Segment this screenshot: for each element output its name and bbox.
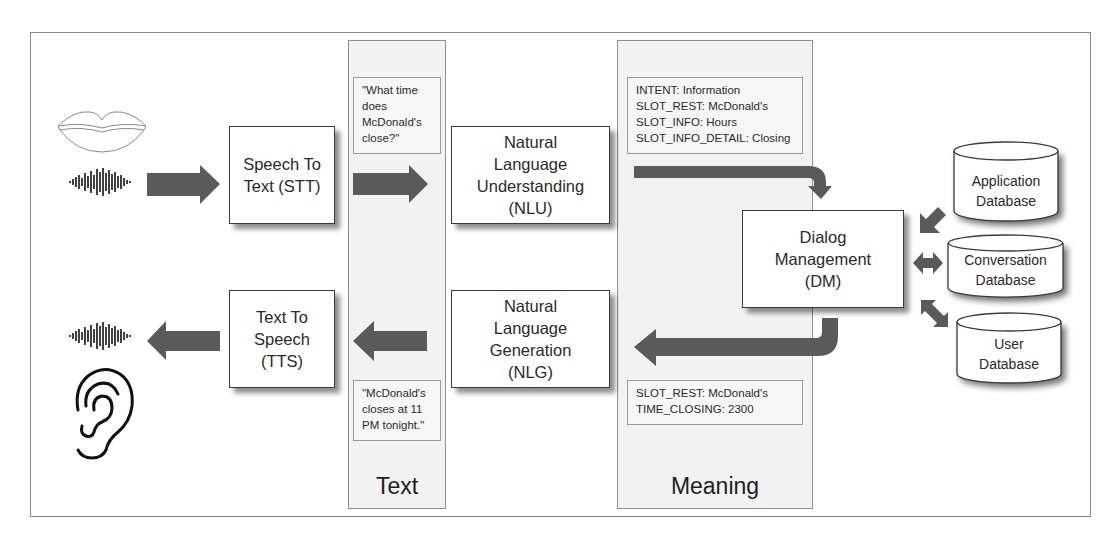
user-database: User Database: [955, 312, 1063, 386]
dm-label: Dialog Management (DM): [775, 226, 871, 292]
nlu-label: Natural Language Understanding (NLU): [477, 131, 584, 219]
lips-icon: [56, 108, 148, 154]
sound-wave-icon: [68, 320, 132, 352]
database-label: Conversation Database: [946, 250, 1065, 290]
tts-box: Text To Speech (TTS): [229, 290, 335, 388]
tts-label: Text To Speech (TTS): [254, 306, 310, 372]
arrow-down-left-icon: [920, 207, 946, 233]
double-arrow-icon: [913, 252, 943, 274]
conversation-database: Conversation Database: [946, 234, 1065, 299]
arrow-left-icon: [147, 321, 220, 360]
curved-arrow-icon: [634, 166, 832, 199]
double-arrow-icon: [921, 300, 948, 327]
nlg-label: Natural Language Generation (NLG): [490, 295, 572, 383]
stt-box: Speech To Text (STT): [229, 126, 335, 224]
arrow-left-icon: [353, 321, 427, 361]
dm-box: Dialog Management (DM): [742, 210, 904, 308]
ear-icon: [72, 366, 136, 460]
stt-label: Speech To Text (STT): [243, 153, 321, 197]
nlg-box: Natural Language Generation (NLG): [451, 290, 610, 388]
sound-wave-icon: [68, 166, 132, 198]
curved-arrow-icon: [634, 318, 838, 366]
nlu-box: Natural Language Understanding (NLU): [451, 126, 610, 224]
application-database: Application Database: [952, 141, 1060, 223]
database-label: Application Database: [952, 171, 1060, 211]
arrow-right-icon: [353, 165, 428, 203]
arrow-right-icon: [147, 165, 220, 204]
database-label: User Database: [955, 334, 1063, 374]
